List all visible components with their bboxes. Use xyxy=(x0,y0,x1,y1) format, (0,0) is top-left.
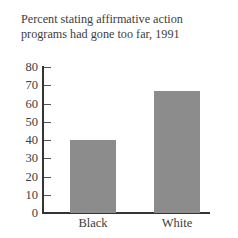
y-tick xyxy=(44,85,51,86)
y-tick xyxy=(44,104,51,105)
y-tick-label: 60 xyxy=(18,98,38,110)
y-tick-label: 10 xyxy=(18,189,38,201)
y-tick-label: 80 xyxy=(18,61,38,73)
y-tick-label: 50 xyxy=(18,116,38,128)
y-tick xyxy=(44,122,51,123)
bar-black xyxy=(70,140,116,213)
x-tick-label-black: Black xyxy=(63,216,123,231)
y-tick-label: 0 xyxy=(18,207,38,219)
y-tick xyxy=(44,67,51,68)
y-tick-label: 40 xyxy=(18,134,38,146)
y-tick xyxy=(44,177,51,178)
y-tick xyxy=(44,158,51,159)
x-tick-label-white: White xyxy=(147,216,207,231)
y-tick-label: 70 xyxy=(18,79,38,91)
y-tick-label: 20 xyxy=(18,171,38,183)
bar-white xyxy=(154,91,200,213)
bar-chart: 01020304050607080BlackWhite xyxy=(0,0,238,238)
y-tick-label: 30 xyxy=(18,152,38,164)
y-tick xyxy=(44,140,51,141)
y-tick xyxy=(44,195,51,196)
